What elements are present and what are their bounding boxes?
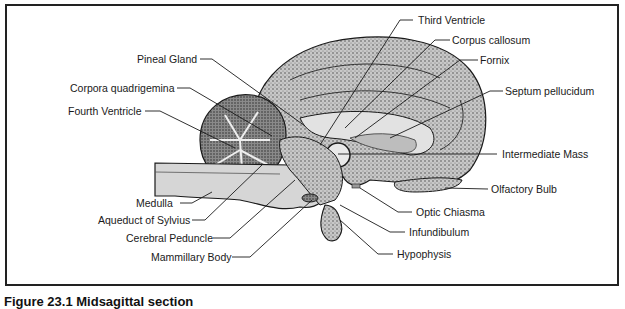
label-infundibulum: Infundibulum [409,226,469,238]
label-fornix: Fornix [480,54,509,66]
label-third-ventricle: Third Ventricle [418,14,485,26]
label-intermediate-mass: Intermediate Mass [502,148,588,160]
label-corpora-quadrigemina: Corpora quadrigemina [70,82,174,94]
label-mammillary-body: Mammillary Body [151,251,232,263]
mammillary-body-shape [302,194,318,202]
label-septum-pellucidum: Septum pellucidum [505,85,594,97]
label-olfactory-bulb: Olfactory Bulb [491,183,557,195]
label-pineal-gland: Pineal Gland [137,53,197,65]
hypophysis-shape [321,205,342,241]
label-fourth-ventricle: Fourth Ventricle [68,105,142,117]
label-cerebral-peduncle: Cerebral Peduncle [126,232,213,244]
label-corpus-callosum: Corpus callosum [452,34,530,46]
figure-caption: Figure 23.1 Midsagittal section [4,294,193,309]
label-medulla: Medulla [136,197,173,209]
label-aqueduct-of-sylvius: Aqueduct of Sylvius [98,214,190,226]
label-optic-chiasma: Optic Chiasma [416,206,485,218]
label-hypophysis: Hypophysis [397,248,451,260]
